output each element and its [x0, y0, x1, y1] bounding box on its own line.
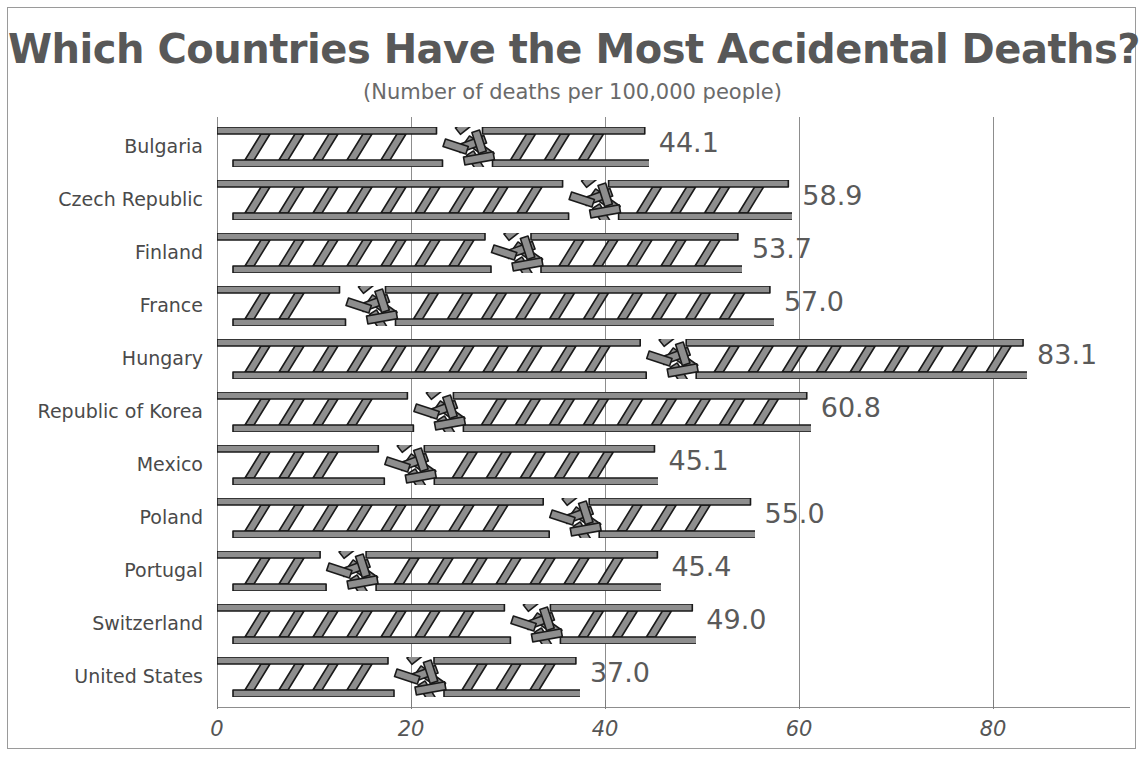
category-label: Poland — [8, 506, 203, 528]
bar-row: 53.7 — [217, 227, 1130, 280]
category-label: France — [8, 294, 203, 316]
bar-value-label: 53.7 — [752, 233, 812, 264]
bar-ladder — [217, 233, 742, 273]
x-tick-label: 40 — [592, 717, 619, 741]
chart-title: Which Countries Have the Most Accidental… — [8, 26, 1137, 72]
bar-row: 57.0 — [217, 280, 1130, 333]
bar-value-label: 49.0 — [706, 604, 766, 635]
bar-row: 44.1 — [217, 121, 1130, 174]
bar-row: 83.1 — [217, 333, 1130, 386]
bar-value-label: 83.1 — [1037, 339, 1097, 370]
x-tick-label: 60 — [786, 717, 813, 741]
bar-value-label: 58.9 — [802, 180, 862, 211]
category-label: Portugal — [8, 559, 203, 581]
bar-value-label: 57.0 — [784, 286, 844, 317]
category-label: Republic of Korea — [8, 400, 203, 422]
bar-ladder — [217, 498, 755, 538]
category-label: Hungary — [8, 347, 203, 369]
bar-value-label: 55.0 — [765, 498, 825, 529]
bar-ladder — [217, 180, 792, 220]
category-label: Switzerland — [8, 612, 203, 634]
bar-ladder — [217, 551, 661, 591]
bar-value-label: 45.1 — [668, 445, 728, 476]
bar-row: 55.0 — [217, 492, 1130, 545]
bar-value-label: 37.0 — [590, 657, 650, 688]
bar-value-label: 44.1 — [659, 127, 719, 158]
bar-row: 45.4 — [217, 545, 1130, 598]
bar-ladder — [217, 445, 658, 485]
category-label: United States — [8, 665, 203, 687]
category-axis-labels: BulgariaCzech RepublicFinlandFranceHunga… — [8, 112, 210, 708]
bar-ladder — [217, 657, 580, 697]
plot-area: 02040608044.158.953.757.083.160.845.155.… — [217, 112, 1130, 708]
category-label: Finland — [8, 241, 203, 263]
category-label: Bulgaria — [8, 135, 203, 157]
bar-ladder — [217, 286, 774, 326]
bar-ladder — [217, 339, 1027, 379]
bar-row: 45.1 — [217, 439, 1130, 492]
chart-subtitle: (Number of deaths per 100,000 people) — [8, 80, 1137, 104]
x-tick-label: 20 — [398, 717, 425, 741]
bar-row: 60.8 — [217, 386, 1130, 439]
bar-row: 37.0 — [217, 651, 1130, 704]
bar-ladder — [217, 392, 811, 432]
category-label: Mexico — [8, 453, 203, 475]
bar-row: 58.9 — [217, 174, 1130, 227]
x-tick-label: 0 — [210, 717, 223, 741]
bar-ladder — [217, 127, 649, 167]
bar-value-label: 45.4 — [671, 551, 731, 582]
x-tick-label: 80 — [980, 717, 1007, 741]
bar-ladder — [217, 604, 696, 644]
bar-value-label: 60.8 — [821, 392, 881, 423]
chart-frame: Which Countries Have the Most Accidental… — [7, 7, 1136, 749]
bar-row: 49.0 — [217, 598, 1130, 651]
category-label: Czech Republic — [8, 188, 203, 210]
